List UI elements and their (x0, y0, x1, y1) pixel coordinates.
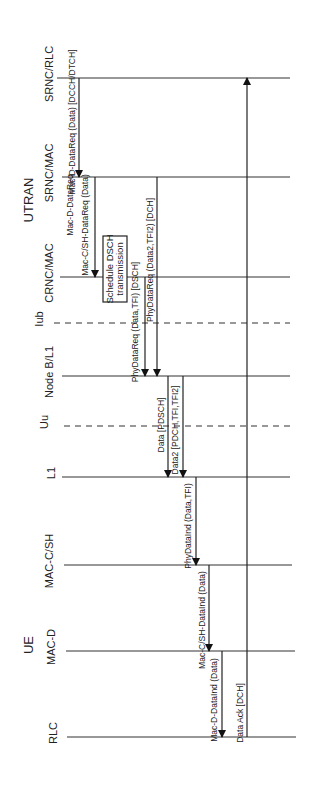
schedule-dsch-line2: transmission (114, 242, 125, 295)
diagram-canvas: SRNC/RLCSRNC/MACCRNC/MACIubNode B/L1UuL1… (0, 0, 313, 787)
lifeline-label-rlc: RLC (47, 722, 59, 744)
message-label-10: Data Ack [DCH] (235, 683, 245, 743)
message-label-1: Mac-D-DataReq (65, 174, 75, 236)
lifeline-label-srnc_mac: SRNC/MAC (43, 144, 55, 203)
message-label-9: Mac-D-DataInd (Data) (209, 658, 219, 742)
lifeline-label-ue_l1: L1 (45, 467, 57, 479)
lifeline-label-mac_csh: MAC-C/SH (43, 534, 55, 588)
message-label-2: Mac-C/SH-DataReq (Data) (80, 174, 90, 276)
message-label-4: PhyDataReq (Data2,TFI2) [DCH] (145, 198, 155, 322)
message-label-3: PhyDataReq (Data,TFI) [DSCH] (130, 262, 140, 382)
message-label-8: Mac-C/SH-DataInd (Data) (197, 571, 207, 669)
lifeline-label-uu: Uu (38, 415, 50, 429)
message-label-0: Mac-D-DataReq (Data) [DCCH/DTCH] (67, 50, 77, 195)
lifeline-label-mac_d: MAC-D (45, 629, 57, 665)
messages: Mac-D-DataReq (Data) [DCCH/DTCH]Mac-D-Da… (65, 50, 247, 743)
lifeline-label-srnc_rlc: SRNC/RLC (43, 46, 55, 102)
message-label-5: Data [PDSCH] (156, 398, 166, 453)
group-labels: UTRANUE (21, 178, 36, 654)
group-label-utran: UTRAN (21, 178, 36, 223)
schedule-dsch-box: Schedule DSCHtransmission (103, 234, 127, 303)
message-label-7: PhyDataInd (Data,TFI) (183, 483, 193, 569)
group-label-ue: UE (21, 636, 36, 654)
lifeline-label-nodeb_l1: Node B/L1 (43, 346, 55, 398)
sequence-diagram: SRNC/RLCSRNC/MACCRNC/MACIubNode B/L1UuL1… (0, 0, 313, 787)
lifeline-label-crnc_mac: CRNC/MAC (43, 243, 55, 302)
message-label-6: Data2 [PDCH,TFI,TFI2] (170, 386, 180, 475)
lifeline-label-iub: Iub (33, 311, 45, 326)
